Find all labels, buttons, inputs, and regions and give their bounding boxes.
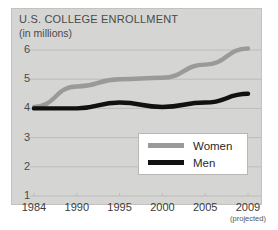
series-line-men bbox=[34, 94, 248, 109]
x-tick-label: 1990 bbox=[57, 201, 97, 213]
y-tick-label: 5 bbox=[18, 72, 30, 84]
y-tick-label: 6 bbox=[18, 43, 30, 55]
chart-figure: U.S. COLLEGE ENROLLMENT (in millions) 65… bbox=[0, 0, 278, 230]
y-tick-label: 1 bbox=[18, 189, 30, 201]
x-tick-label: 2000 bbox=[142, 201, 182, 213]
legend-swatch-women bbox=[148, 143, 184, 148]
y-tick-label: 4 bbox=[18, 101, 30, 113]
chart-series-lines bbox=[34, 49, 248, 109]
x-axis-projected-note: (projected) bbox=[218, 214, 278, 223]
y-tick-label: 3 bbox=[18, 131, 30, 143]
series-line-women bbox=[34, 49, 248, 107]
x-tick-label: 2009 bbox=[228, 201, 268, 213]
legend-swatch-men bbox=[148, 160, 184, 165]
x-tick-label: 1984 bbox=[14, 201, 54, 213]
legend-label-men: Men bbox=[193, 155, 215, 171]
chart-legend: Women Men bbox=[138, 133, 248, 175]
x-tick-label: 1995 bbox=[100, 201, 140, 213]
legend-label-women: Women bbox=[193, 138, 232, 154]
chart-plot-svg bbox=[0, 0, 278, 230]
x-tick-label: 2005 bbox=[185, 201, 225, 213]
y-tick-label: 2 bbox=[18, 160, 30, 172]
